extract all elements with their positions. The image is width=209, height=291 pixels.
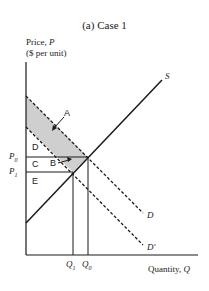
supply-curve: [26, 80, 162, 223]
area-a-label: A: [64, 109, 70, 118]
diagram-title: (a) Case 1: [0, 20, 209, 31]
demand-shifted-label: D': [147, 243, 155, 252]
area-b-label: B: [50, 159, 56, 168]
area-e-label: E: [32, 177, 38, 186]
demand-shifted-curve: [26, 127, 143, 245]
q0-label: Q0: [82, 260, 92, 271]
p1-label: P1: [9, 167, 18, 178]
x-axis-label-text: Quantity,: [148, 264, 183, 274]
y-axis-label-text: Price,: [26, 37, 49, 47]
arrow-a: [54, 117, 64, 128]
demand-curve: [26, 96, 143, 213]
q1-label: Q1: [66, 260, 76, 271]
area-d-label: D: [32, 143, 39, 152]
p0-label: P0: [9, 152, 18, 163]
supply-label: S: [165, 72, 170, 81]
area-c-label: C: [32, 160, 39, 169]
y-axis-var: P: [49, 37, 55, 47]
y-axis-unit: ($ per unit): [26, 48, 67, 58]
x-axis-label: Quantity, Q: [148, 265, 190, 274]
y-axis-label: Price, P ($ per unit): [26, 37, 67, 59]
x-axis-var: Q: [183, 264, 190, 274]
demand-label: D: [147, 211, 154, 220]
